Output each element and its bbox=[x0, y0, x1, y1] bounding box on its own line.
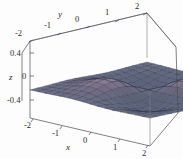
surface-plot-figure: 0.4 0 -0.4 z -2 -1 0 1 2 x -2 bbox=[0, 0, 183, 159]
x-tick-label-1: -1 bbox=[52, 128, 59, 138]
x-tick-label-4: 2 bbox=[142, 148, 146, 158]
x-axis: -2 -1 0 1 2 x bbox=[24, 119, 148, 158]
surface-mesh bbox=[30, 62, 183, 118]
y-axis: -2 -1 0 1 2 y bbox=[15, 1, 147, 42]
y-tick-label-3: 1 bbox=[105, 7, 109, 17]
z-tick-label-2: -0.4 bbox=[7, 95, 21, 105]
bounding-box-top bbox=[22, 13, 176, 53]
x-tick-label-0: -2 bbox=[24, 120, 31, 130]
y-tick-label-2: 0 bbox=[75, 14, 79, 24]
x-tickmark--2 bbox=[31, 119, 33, 122]
y-tick-label-4: 2 bbox=[135, 1, 139, 11]
x-axis-title: x bbox=[65, 142, 70, 152]
x-tickmark-1 bbox=[118, 139, 120, 142]
z-tick-label-0: 0.4 bbox=[10, 48, 21, 58]
z-axis-title: z bbox=[8, 72, 13, 82]
z-tick-label-1: 0 bbox=[22, 71, 26, 81]
y-tick-label-0: -2 bbox=[15, 28, 22, 38]
y-tick-label-1: -1 bbox=[44, 20, 51, 30]
x-tickmark--1 bbox=[60, 126, 62, 129]
plot-canvas: 0.4 0 -0.4 z -2 -1 0 1 2 x -2 bbox=[0, 0, 183, 159]
x-tick-label-2: 0 bbox=[83, 135, 87, 145]
x-tickmark-0 bbox=[89, 132, 91, 135]
x-tick-label-3: 1 bbox=[113, 142, 117, 152]
y-axis-title: y bbox=[57, 9, 62, 19]
